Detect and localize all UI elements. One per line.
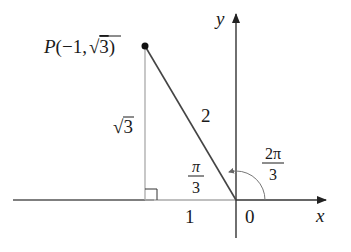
standard-angle-denominator: 3: [269, 166, 277, 183]
point-p-dot: [142, 43, 149, 50]
vertical-leg-label: √3: [113, 116, 133, 137]
reference-angle-numerator: π: [192, 158, 201, 175]
origin-label: 0: [245, 206, 255, 227]
x-axis-label: x: [315, 205, 325, 226]
reference-angle-denominator: 3: [192, 179, 200, 196]
horizontal-leg-label: 1: [185, 206, 195, 227]
right-angle-marker: [145, 189, 157, 200]
point-p-label: P(−1,√3): [43, 36, 115, 58]
y-axis-label: y: [214, 8, 225, 29]
hypotenuse-label: 2: [201, 105, 211, 126]
standard-angle-numerator: 2π: [265, 145, 281, 162]
angle-arc-2pi-3: [229, 171, 265, 200]
hypotenuse: [145, 46, 236, 200]
diagram-canvas: P(−1,√3) √3 2 1 0 x y π 3 2π 3: [0, 0, 351, 252]
